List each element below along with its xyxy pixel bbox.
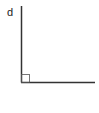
- right-angle-diagram: d: [0, 0, 99, 113]
- right-angle-figure: [0, 0, 99, 113]
- line-label: d: [7, 7, 13, 18]
- right-angle-marker: [22, 75, 30, 83]
